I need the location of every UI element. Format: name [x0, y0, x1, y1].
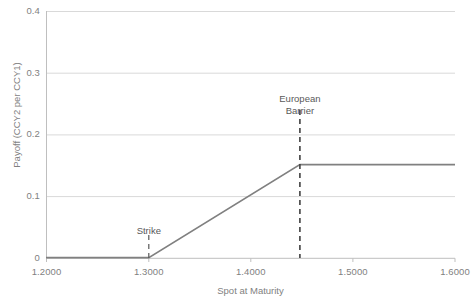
european-barrier-label-line-1: European [250, 93, 350, 105]
xtick-label-0: 1.2000 [17, 266, 77, 277]
payoff-chart: 0.4 0.3 0.2 0.1 0 1.2000 1.3000 1.4000 1… [0, 0, 476, 306]
y-axis-title: Payoff (CCY2 per CCY1) [11, 15, 22, 215]
european-barrier-annotation: European Barrier [250, 93, 350, 117]
xtick-label-2: 1.4000 [221, 266, 281, 277]
xtick-label-3: 1.5000 [323, 266, 383, 277]
xtick-label-4: 1.6000 [425, 266, 476, 277]
payoff-series-line [46, 165, 455, 258]
x-axis-title: Spot at Maturity [151, 285, 351, 296]
european-barrier-label-line-2: Barrier [250, 105, 350, 117]
strike-annotation-label: Strike [119, 225, 179, 237]
ytick-label-4: 0 [14, 252, 40, 263]
xtick-label-1: 1.3000 [119, 266, 179, 277]
chart-canvas [0, 0, 476, 306]
